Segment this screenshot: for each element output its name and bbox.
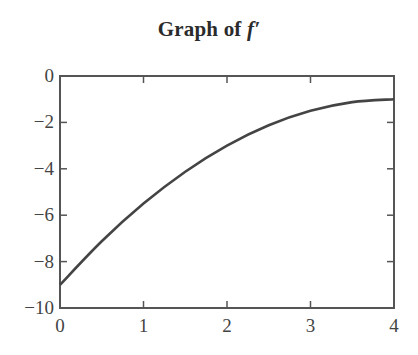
plot-frame [60,76,394,308]
x-tick-label: 3 [306,315,316,336]
tick-marks [60,76,394,308]
x-tick-label: 0 [55,315,65,336]
y-tick-label: 0 [45,65,55,86]
y-tick-label: −6 [34,204,54,225]
x-tick-label: 2 [222,315,232,336]
y-tick-labels: 0−2−4−6−8−10 [24,65,54,318]
y-tick-label: −8 [34,251,54,272]
y-tick-label: −2 [34,111,54,132]
plot-axes [60,76,394,308]
chart-plot: 01234 0−2−4−6−8−10 [0,0,418,355]
y-tick-label: −4 [34,158,55,179]
x-tick-labels: 01234 [55,315,399,336]
x-tick-label: 1 [139,315,149,336]
data-line-f-prime [60,99,394,285]
y-tick-label: −10 [24,297,54,318]
x-tick-label: 4 [389,315,399,336]
